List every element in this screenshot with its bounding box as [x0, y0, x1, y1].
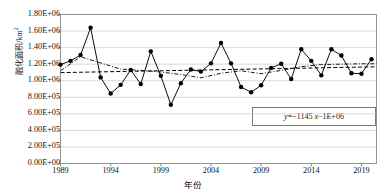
- data-point: [108, 91, 112, 95]
- data-point: [339, 53, 343, 57]
- data-point: [159, 74, 163, 78]
- data-point: [229, 61, 233, 65]
- data-point: [78, 53, 82, 57]
- data-point: [118, 83, 122, 87]
- data-point: [329, 47, 333, 51]
- data-point: [259, 83, 263, 87]
- data-point: [319, 73, 323, 77]
- data-point: [189, 67, 193, 71]
- data-point: [349, 71, 353, 75]
- data-point: [98, 75, 102, 79]
- plot-svg: [0, 0, 386, 196]
- data-point: [139, 82, 143, 86]
- data-point: [179, 81, 183, 85]
- data-point: [209, 61, 213, 65]
- data-point: [369, 57, 373, 61]
- data-point: [88, 26, 92, 30]
- data-point: [169, 103, 173, 107]
- data-point: [309, 59, 313, 63]
- series-line: [61, 67, 377, 73]
- data-point: [359, 71, 363, 75]
- data-point: [58, 62, 62, 66]
- data-point: [68, 59, 72, 63]
- data-point: [239, 85, 243, 89]
- data-point: [289, 77, 293, 81]
- data-point: [219, 41, 223, 45]
- data-point: [299, 47, 303, 51]
- data-point: [269, 66, 273, 70]
- data-point: [149, 49, 153, 53]
- data-point: [249, 90, 253, 94]
- data-point: [279, 62, 283, 66]
- chart-root: 融化面积/km2 0.00E+002.00E+054.00E+056.00E+0…: [0, 0, 386, 196]
- series-line: [61, 28, 372, 105]
